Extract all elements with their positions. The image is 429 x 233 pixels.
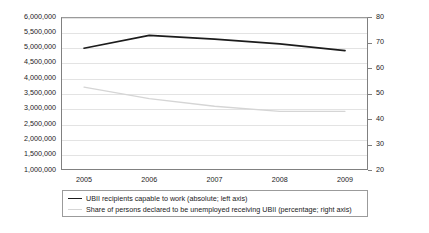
y-tick-right: 80 <box>376 13 402 21</box>
y-tick-left: 4,000,000 <box>0 74 56 82</box>
x-tick-label: 2009 <box>325 175 365 184</box>
legend-item-1: Share of persons declared to be unemploy… <box>68 204 352 215</box>
y-tick-left: 2,000,000 <box>0 135 56 143</box>
y-tick-mark-right <box>368 94 372 95</box>
legend-label-1: Share of persons declared to be unemploy… <box>86 205 352 214</box>
y-tick-right: 30 <box>376 140 402 148</box>
x-tick-label: 2007 <box>195 175 235 184</box>
y-tick-left: 6,000,000 <box>0 13 56 21</box>
x-tick-label: 2006 <box>129 175 169 184</box>
legend-label-0: UBII recipients capable to work (absolut… <box>86 194 247 203</box>
chart-legend: UBII recipients capable to work (absolut… <box>62 190 368 217</box>
y-tick-mark-right <box>368 145 372 146</box>
series-layer <box>61 17 368 170</box>
y-tick-mark-right <box>368 119 372 120</box>
legend-line-gray-icon <box>68 209 82 210</box>
y-tick-left: 5,500,000 <box>0 28 56 36</box>
y-tick-mark-right <box>368 68 372 69</box>
legend-line-dark-icon <box>68 198 82 199</box>
y-tick-left: 1,000,000 <box>0 166 56 174</box>
y-tick-left: 3,000,000 <box>0 104 56 112</box>
series-line-ubii-recipients <box>84 35 345 50</box>
y-tick-mark-right <box>368 43 372 44</box>
y-tick-left: 3,500,000 <box>0 89 56 97</box>
line-chart-figure: 1,000,0001,500,0002,000,0002,500,0003,00… <box>0 0 429 233</box>
y-tick-right: 50 <box>376 89 402 97</box>
y-tick-right: 20 <box>376 166 402 174</box>
y-tick-right: 60 <box>376 64 402 72</box>
y-tick-mark-right <box>368 170 372 171</box>
y-tick-left: 2,500,000 <box>0 120 56 128</box>
series-line-unemployed-share <box>84 87 345 111</box>
y-tick-right: 40 <box>376 115 402 123</box>
y-tick-left: 1,500,000 <box>0 150 56 158</box>
y-tick-left: 5,000,000 <box>0 43 56 51</box>
legend-item-0: UBII recipients capable to work (absolut… <box>68 193 247 204</box>
x-tick-label: 2008 <box>260 175 300 184</box>
x-tick-label: 2005 <box>64 175 104 184</box>
y-tick-mark-right <box>368 17 372 18</box>
y-tick-right: 70 <box>376 38 402 46</box>
y-tick-left: 4,500,000 <box>0 58 56 66</box>
